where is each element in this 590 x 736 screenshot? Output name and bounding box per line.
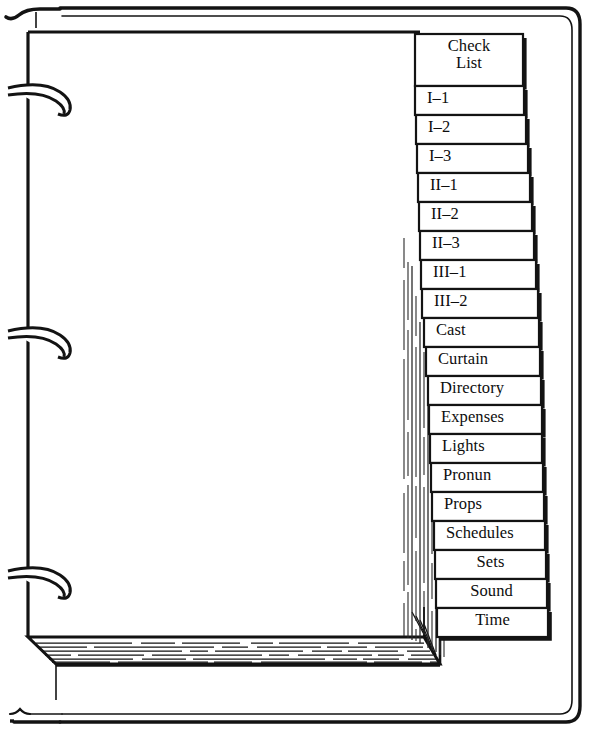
tab-hit-directory[interactable]: [428, 376, 543, 405]
tab-hit-pronun[interactable]: [431, 463, 545, 492]
tab-hit-ii-2[interactable]: [419, 202, 534, 231]
binder-illustration: Check List I–1 I–2 I–3 II–1 II–2 II–3 II…: [0, 0, 590, 736]
tab-hit-schedules[interactable]: [434, 521, 547, 550]
tab-hit-expenses[interactable]: [429, 405, 544, 434]
tab-hit-iii-1[interactable]: [421, 260, 538, 289]
tab-hit-sets[interactable]: [435, 550, 548, 579]
tab-hit-lights[interactable]: [430, 434, 544, 463]
tab-hit-i-3[interactable]: [417, 144, 530, 173]
ring-top: [8, 85, 70, 116]
tab-hit-props[interactable]: [432, 492, 546, 521]
tab-hit-time[interactable]: [437, 608, 550, 637]
tab-hit-check-list[interactable]: [415, 34, 525, 86]
ring-bottom: [8, 568, 70, 599]
tab-hit-cast[interactable]: [424, 318, 541, 347]
paper-block: [28, 12, 420, 637]
tab-hit-i-2[interactable]: [416, 115, 528, 144]
tab-hit-i-1[interactable]: [415, 86, 526, 115]
tab-hit-ii-3[interactable]: [420, 231, 536, 260]
tab-hit-ii-1[interactable]: [418, 173, 532, 202]
ring-middle: [8, 328, 70, 359]
tab-hit-iii-2[interactable]: [422, 289, 540, 318]
tab-hit-curtain[interactable]: [426, 347, 542, 376]
tab-hit-sound[interactable]: [436, 579, 549, 608]
page-stack-edge: [28, 607, 440, 700]
